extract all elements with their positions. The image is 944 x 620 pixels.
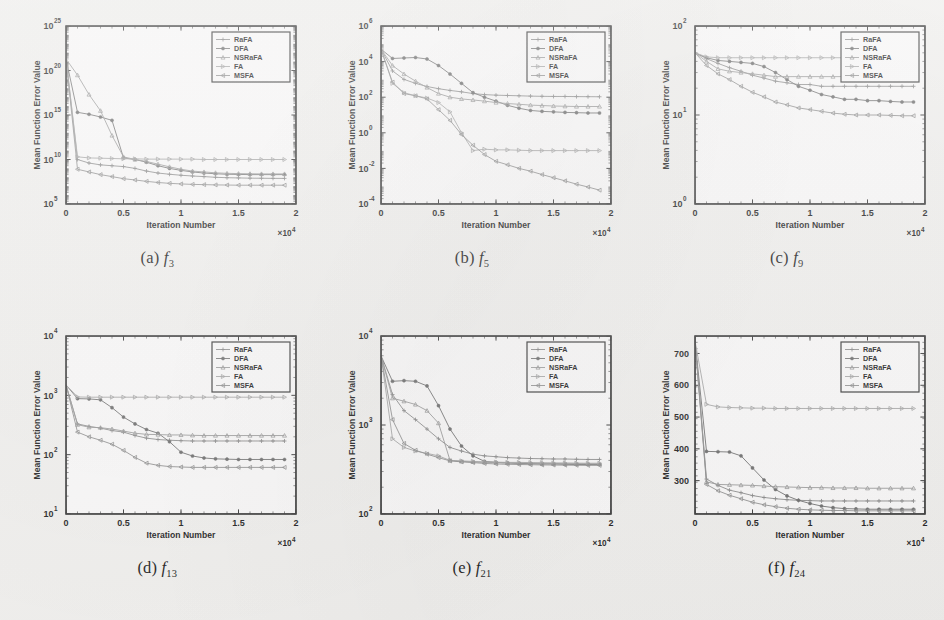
legend-label-dfa: DFA: [549, 44, 563, 53]
svg-text:1: 1: [808, 518, 813, 528]
subplot-a: 105101010151020102500.511.52105101010151…: [0, 0, 315, 310]
caption-index: (e): [453, 558, 476, 577]
subplot-b: 10-410-210010210410600.511.5210-410-2100…: [315, 0, 630, 310]
svg-text:10: 10: [358, 509, 368, 519]
legend-label-dfa: DFA: [234, 44, 248, 53]
chart-legend-c: RaFADFANSRaFAFAMSFA: [841, 32, 919, 82]
svg-text:10: 10: [358, 199, 368, 209]
legend-label-nsrafa: NSRaFA: [234, 53, 262, 62]
legend-label-msfa: MSFA: [549, 71, 569, 80]
x-axis-multiplier: ×10: [278, 229, 292, 238]
legend-label-rafa: RaFA: [863, 35, 881, 44]
y-axis-label: Mean Function Error Value: [32, 60, 42, 169]
chart-legend-d: RaFADFANSRaFAFAMSFA: [212, 342, 290, 392]
caption-function-index: 24: [794, 568, 805, 579]
chart-svg-b: 10-410-210010210410600.511.5210-410-2100…: [325, 12, 621, 248]
caption-function-index: 5: [484, 258, 489, 269]
legend-label-rafa: RaFA: [234, 345, 252, 354]
chart-svg-a: 105101010151020102500.511.52105101010151…: [10, 12, 306, 248]
legend-label-dfa: DFA: [549, 354, 563, 363]
chart-svg-f: 30040050060070000.511.523004005006007000…: [639, 322, 935, 558]
plot-area-f: 30040050060070000.511.523004005006007000…: [639, 322, 936, 562]
svg-text:1: 1: [178, 518, 183, 528]
legend-label-dfa: DFA: [234, 354, 248, 363]
caption-index: (d): [137, 558, 161, 577]
plot-area-d: 10110210310400.511.5210110210310400.511.…: [10, 322, 307, 562]
x-axis-multiplier: ×10: [278, 539, 292, 548]
subplot-cell-a: 105101010151020102500.511.52105101010151…: [0, 0, 315, 310]
subplot-caption-e: (e) f21: [315, 558, 630, 579]
svg-text:1: 1: [683, 106, 687, 113]
svg-text:2: 2: [293, 518, 298, 528]
x-axis-label: Iteration Number: [461, 220, 530, 230]
x-axis-multiplier: ×10: [907, 229, 921, 238]
svg-text:2: 2: [923, 208, 928, 218]
svg-text:2: 2: [923, 518, 928, 528]
caption-index: (a): [141, 248, 164, 267]
svg-text:0: 0: [693, 518, 698, 528]
legend-label-msfa: MSFA: [234, 71, 254, 80]
svg-text:10: 10: [673, 110, 683, 120]
svg-text:10: 10: [673, 21, 683, 31]
legend-label-nsrafa: NSRaFA: [549, 363, 577, 372]
svg-text:2: 2: [608, 208, 613, 218]
legend-label-rafa: RaFA: [863, 345, 881, 354]
subplot-c: 10010110200.511.5210010110200.511.52Iter…: [629, 0, 944, 310]
svg-text:4: 4: [369, 53, 373, 60]
svg-text:0: 0: [683, 195, 687, 202]
legend-label-fa: FA: [549, 372, 558, 381]
svg-text:500: 500: [674, 412, 689, 422]
legend-label-nsrafa: NSRaFA: [863, 363, 891, 372]
chart-svg-e: 10210310400.511.5210210310400.511.52Iter…: [325, 322, 621, 558]
svg-text:700: 700: [674, 349, 689, 359]
svg-text:2: 2: [293, 208, 298, 218]
x-axis-label: Iteration Number: [776, 220, 845, 230]
legend-label-fa: FA: [234, 372, 243, 381]
subplot-cell-d: 10110210310400.511.5210110210310400.511.…: [0, 310, 315, 620]
x-axis-multiplier: ×10: [592, 539, 606, 548]
subplot-caption-b: (b) f5: [315, 248, 630, 269]
subplot-cell-c: 10010110200.511.5210010110200.511.52Iter…: [629, 0, 944, 310]
svg-text:10: 10: [43, 110, 53, 120]
svg-text:10: 10: [358, 331, 368, 341]
legend-label-dfa: DFA: [863, 44, 877, 53]
legend-label-nsrafa: NSRaFA: [549, 53, 577, 62]
subplot-cell-b: 10-410-210010210410600.511.5210-410-2100…: [315, 0, 630, 310]
caption-index: (f): [768, 558, 789, 577]
svg-text:20: 20: [54, 62, 62, 69]
svg-text:10: 10: [673, 199, 683, 209]
legend-label-msfa: MSFA: [863, 71, 883, 80]
svg-text:1: 1: [808, 208, 813, 218]
chart-svg-c: 10010110200.511.5210010110200.511.52Iter…: [639, 12, 935, 248]
svg-text:10: 10: [43, 199, 53, 209]
svg-text:400: 400: [674, 444, 689, 454]
figure-subplot-grid: 105101010151020102500.511.52105101010151…: [0, 0, 944, 620]
legend-label-fa: FA: [863, 372, 872, 381]
svg-text:1.5: 1.5: [547, 208, 560, 218]
svg-text:4: 4: [921, 226, 925, 233]
x-axis-label: Iteration Number: [776, 530, 845, 540]
legend-label-nsrafa: NSRaFA: [863, 53, 891, 62]
x-axis-label: Iteration Number: [147, 530, 216, 540]
svg-text:0: 0: [693, 208, 698, 218]
legend-label-dfa: DFA: [863, 354, 877, 363]
x-axis-label: Iteration Number: [147, 220, 216, 230]
legend-label-msfa: MSFA: [863, 381, 883, 390]
subplot-caption-f: (f) f24: [629, 558, 944, 579]
svg-text:10: 10: [43, 66, 53, 76]
caption-function-index: 3: [169, 258, 174, 269]
svg-text:5: 5: [54, 195, 58, 202]
x-axis-multiplier: ×10: [907, 539, 921, 548]
legend-label-rafa: RaFA: [234, 35, 252, 44]
svg-text:4: 4: [369, 327, 373, 334]
subplot-caption-d: (d) f13: [0, 558, 315, 579]
caption-function-index: 21: [481, 568, 492, 579]
svg-text:1.5: 1.5: [547, 518, 560, 528]
svg-text:600: 600: [674, 380, 689, 390]
subplot-caption-c: (c) f9: [629, 248, 944, 269]
chart-legend-f: RaFADFANSRaFAFAMSFA: [841, 342, 919, 392]
svg-text:10: 10: [358, 92, 368, 102]
svg-text:15: 15: [54, 106, 62, 113]
svg-text:3: 3: [54, 387, 58, 394]
y-axis-label: Mean Function Error Value: [661, 370, 671, 479]
